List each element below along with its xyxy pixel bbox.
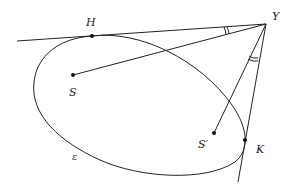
label-S: S — [69, 86, 77, 99]
ellipse-curve — [34, 35, 246, 175]
point-S — [71, 73, 75, 77]
point-K — [243, 138, 247, 142]
label-H: H — [85, 16, 96, 29]
label-epsilon: ε — [72, 151, 77, 162]
point-H — [90, 34, 94, 38]
segment-Sprime-Y — [214, 24, 266, 133]
label-K: K — [255, 143, 265, 156]
label-Y: Y — [272, 10, 281, 23]
point-S-prime — [212, 131, 216, 135]
tangent-line-through-K — [238, 24, 266, 182]
ellipse-tangent-diagram: Y H S S′ K ε — [0, 0, 292, 190]
label-S-prime: S′ — [198, 138, 209, 151]
segment-S-Y — [73, 24, 266, 75]
